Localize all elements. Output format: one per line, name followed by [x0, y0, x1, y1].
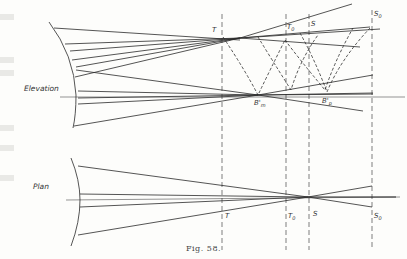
plan-label: Plan [33, 182, 49, 191]
optics-diagram [0, 0, 407, 259]
point-S0: S0 [374, 10, 382, 19]
plan-point-T0-sub: 0 [292, 215, 295, 221]
elevation-mirror-curve [49, 22, 76, 128]
point-Bp: B'p [322, 97, 332, 106]
plan-point-T: T [225, 212, 229, 220]
point-T-text: T [212, 26, 216, 34]
point-T0-sub: 0 [291, 26, 294, 32]
plan-point-S0-sub: 0 [378, 215, 381, 221]
point-S0-sub: 0 [378, 13, 381, 19]
plan-point-T-text: T [225, 212, 229, 220]
plan-mirror-curve [71, 158, 80, 246]
point-S-text: S [311, 20, 315, 28]
plan-point-S-text: S [313, 210, 317, 218]
plan-point-S0: S0 [374, 212, 382, 221]
point-T: T [212, 26, 216, 34]
point-S: S [311, 20, 315, 28]
plan-point-T0: T0 [288, 212, 295, 221]
point-T0: T0 [287, 23, 294, 32]
elevation-label: Elevation [24, 84, 59, 93]
point-Bm-text: B' [254, 99, 261, 107]
point-Bp-text: B' [322, 97, 329, 105]
point-Bp-sub: p [329, 100, 332, 106]
point-Bm-sub: m [261, 102, 266, 108]
figure-caption: Fig. 58. [0, 244, 407, 253]
point-Bm: B'm [254, 99, 266, 108]
plan-point-S: S [313, 210, 317, 218]
